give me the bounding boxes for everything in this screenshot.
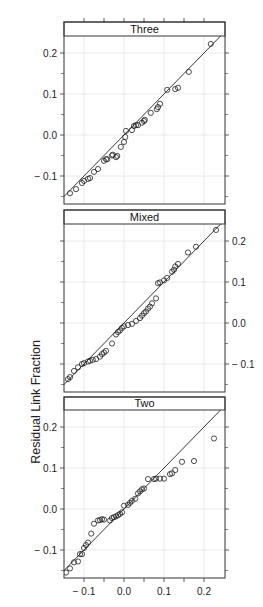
strip-label: Two: [134, 397, 154, 409]
data-point: [185, 250, 190, 255]
data-point: [118, 144, 123, 149]
y-tick-label: 0.1: [43, 89, 57, 100]
y-tick-label: 0.1: [43, 463, 57, 474]
data-point: [153, 296, 158, 301]
y-tick-label: 0.0: [43, 504, 57, 515]
data-point: [186, 69, 191, 74]
y-tick-label: 0.0: [232, 318, 246, 329]
data-point: [109, 341, 114, 346]
panel-mixed: Mixed− 0.10.00.10.2: [44, 200, 255, 405]
strip-label: Mixed: [130, 211, 159, 223]
data-points: [63, 436, 216, 575]
y-tick-label: 0.2: [43, 48, 57, 59]
y-tick-label: 0.2: [232, 236, 246, 247]
y-axis-label: Residual Link Fraction: [29, 340, 43, 464]
data-point: [165, 87, 170, 92]
panels-group: Three− 0.10.00.10.2Mixed− 0.10.00.10.2Tw…: [34, 12, 254, 597]
x-tick-label: 0.2: [197, 586, 211, 597]
panel-three: Three− 0.10.00.10.2: [34, 12, 244, 217]
reference-line: [44, 12, 244, 217]
data-point: [73, 187, 78, 192]
x-tick-label: − 0.1: [73, 586, 96, 597]
strip-label: Three: [130, 23, 159, 35]
data-point: [211, 436, 216, 441]
data-point: [148, 110, 153, 115]
y-tick-label: 0.1: [232, 277, 246, 288]
data-point: [191, 458, 196, 463]
y-tick-label: 0.2: [43, 422, 57, 433]
data-point: [179, 459, 184, 464]
reference-line: [44, 200, 244, 405]
x-tick-label: 0.1: [157, 586, 171, 597]
data-point: [67, 566, 72, 571]
data-point: [145, 476, 150, 481]
data-point: [105, 157, 110, 162]
panel-two: Two− 0.10.00.10.2: [34, 386, 244, 591]
data-point: [67, 191, 72, 196]
y-tick-label: − 0.1: [34, 545, 57, 556]
y-tick-label: − 0.1: [232, 359, 255, 370]
x-tick-label: 0.0: [117, 586, 131, 597]
data-point: [89, 531, 94, 536]
qq-trellis-chart: Three− 0.10.00.10.2Mixed− 0.10.00.10.2Tw…: [0, 0, 263, 607]
y-tick-label: 0.0: [43, 130, 57, 141]
y-tick-label: − 0.1: [34, 171, 57, 182]
panel-border: [64, 210, 225, 392]
data-point: [95, 166, 100, 171]
reference-line: [44, 386, 244, 591]
